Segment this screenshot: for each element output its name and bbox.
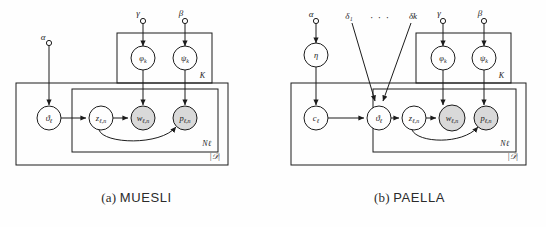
- plate-dataset-label: |𝒟|: [508, 152, 518, 161]
- plate-tokens-label: Nℓ: [201, 139, 211, 148]
- panel-muesli: |𝒟| Nℓ K α γ β φk: [0, 0, 273, 227]
- hyperparam-delta-k-label: δk: [409, 11, 418, 21]
- caption-muesli: (a) MUESLI: [0, 190, 273, 206]
- node-eta-label: η: [314, 50, 318, 60]
- hyperparam-beta-node: [182, 18, 187, 23]
- hyperparam-gamma-node: [440, 18, 445, 23]
- hyperparam-gamma-node: [140, 18, 145, 23]
- hyperparam-delta-ellipsis: · · ·: [370, 12, 390, 23]
- hyperparam-beta-node: [481, 18, 486, 23]
- plate-tokens-label: Nℓ: [499, 139, 509, 148]
- hyperparam-gamma-label: γ: [437, 8, 441, 18]
- hyperparam-alpha-label: α: [309, 9, 314, 19]
- graphical-model-paella: |𝒟| Nℓ K α η δ₁ · · · δk: [273, 0, 546, 190]
- caption-muesli-index: (a): [101, 190, 116, 205]
- panel-paella: |𝒟| Nℓ K α η δ₁ · · · δk: [273, 0, 546, 227]
- plate-topics: [416, 33, 511, 83]
- hyperparam-alpha-label: α: [41, 32, 46, 42]
- caption-paella-name: PAELLA: [393, 190, 445, 205]
- figure-root: |𝒟| Nℓ K α γ β φk: [0, 0, 546, 227]
- hyperparam-beta-label: β: [178, 8, 184, 18]
- hyperparam-gamma-label: γ: [136, 8, 140, 18]
- plate-topics-label: K: [199, 71, 206, 80]
- caption-paella-index: (b): [374, 190, 390, 205]
- hyperparam-alpha-node: [313, 18, 318, 23]
- hyperparam-alpha-node: [46, 40, 51, 45]
- hyperparam-delta-1-label: δ₁: [345, 11, 352, 21]
- plate-dataset-label: |𝒟|: [210, 152, 220, 161]
- hyperparam-beta-label: β: [477, 8, 483, 18]
- graphical-model-muesli: |𝒟| Nℓ K α γ β φk: [0, 0, 273, 190]
- edge-delta-1-theta: [352, 23, 375, 101]
- caption-muesli-name: MUESLI: [120, 190, 172, 205]
- caption-paella: (b) PAELLA: [273, 190, 546, 206]
- plate-topics-label: K: [498, 71, 505, 80]
